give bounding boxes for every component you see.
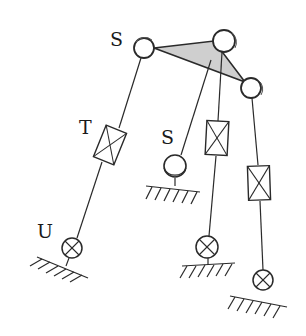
prismatic-joint-middle — [205, 120, 229, 155]
mechanism-diagram: S T S U — [0, 0, 306, 336]
label-middle-s: S — [161, 128, 174, 147]
spherical-joint-top-right — [213, 30, 236, 52]
ground-middle-s — [146, 186, 200, 204]
spherical-joint-right — [241, 78, 263, 98]
spherical-joint-middle-base — [164, 155, 186, 186]
link-left-lower — [77, 162, 102, 238]
prismatic-joint-right — [247, 166, 270, 201]
ground-left-u — [30, 257, 88, 282]
link-middle-lower — [209, 156, 216, 236]
diagram-svg — [0, 0, 306, 336]
link-right-upper — [252, 98, 258, 165]
label-t: T — [79, 118, 92, 137]
link-right-lower — [260, 201, 263, 270]
label-top-s: S — [110, 30, 123, 49]
label-u: U — [37, 222, 53, 241]
ground-right-u — [228, 296, 287, 318]
universal-joint-left — [62, 238, 82, 266]
universal-joint-middle — [196, 236, 218, 265]
link-left-upper — [119, 58, 141, 128]
spherical-joint-top-left — [134, 37, 154, 58]
universal-joint-right — [253, 270, 273, 298]
ground-middle-u — [180, 263, 235, 278]
prismatic-joint-left — [93, 125, 126, 165]
